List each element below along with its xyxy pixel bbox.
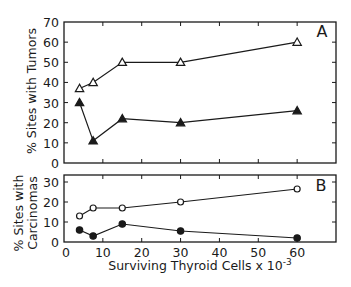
panel-a-tumors: 010203040506070 A % Sites with Tumors [24,15,336,171]
open-triangles-line [80,42,298,88]
panel-b-y-axis-label-line2: Carcinomas [25,176,40,250]
y-tick-label: 50 [43,55,59,70]
open-circle-marker [77,213,83,219]
filled-circles-line [80,224,298,238]
y-tick-label: 20 [43,195,59,210]
panel-b-y-tick-labels: 0102030 [43,175,59,250]
open-circles-line [80,189,298,216]
panel-a-series [75,38,301,144]
x-axis-label: Surviving Thyroid Cells x 10-3 [108,257,292,273]
y-tick-label: 30 [43,175,59,190]
panel-a-label: A [317,22,328,41]
open-circle-marker [294,186,300,192]
y-tick-label: 10 [43,215,59,230]
chart: 010203040506070 A % Sites with Tumors 01… [0,0,351,287]
panel-b-y-axis-label-line1: % Sites with [11,175,26,252]
open-circle-marker [119,205,125,211]
filled-triangle-marker [75,98,83,105]
panel-a-y-tick-labels: 010203040506070 [43,15,59,171]
panel-b-carcinomas: 0102030 0102030405060 B % Sites with Car… [11,175,336,260]
filled-circle-marker [119,221,125,227]
filled-circle-marker [90,233,96,239]
y-tick-label: 0 [51,235,59,250]
filled-circle-marker [76,227,82,233]
y-tick-label: 60 [43,35,59,50]
x-axis-label-main: Surviving Thyroid Cells x 10 [108,258,283,273]
filled-triangles-line [80,103,298,141]
filled-circle-marker [294,235,300,241]
x-tick-label: 0 [62,245,70,260]
y-tick-label: 10 [43,136,59,151]
y-tick-label: 70 [43,15,59,30]
panel-b-label: B [316,176,327,195]
open-triangle-marker [293,38,301,45]
panel-b-series [76,186,300,241]
filled-triangle-marker [118,114,126,121]
y-tick-label: 30 [43,96,59,111]
open-circle-marker [178,199,184,205]
filled-triangle-marker [293,106,301,113]
y-tick-label: 20 [43,116,59,131]
filled-circle-marker [177,228,183,234]
panel-a-y-axis-label: % Sites with Tumors [24,28,39,154]
open-circle-marker [90,205,96,211]
x-axis-label-exponent: -3 [283,257,292,267]
open-triangle-marker [89,78,97,85]
filled-triangle-marker [89,137,97,144]
open-triangle-marker [75,84,83,91]
y-tick-label: 0 [51,156,59,171]
y-tick-label: 40 [43,75,59,90]
